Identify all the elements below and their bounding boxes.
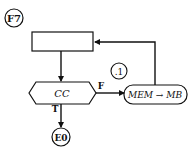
true-branch-label: T: [52, 104, 59, 114]
loop-back-arrow: [95, 42, 155, 85]
note-connector-label: .1: [115, 67, 124, 77]
decision-label: CC: [54, 88, 70, 99]
exit-connector-e0: E0: [52, 128, 70, 146]
note-connector: .1: [111, 63, 127, 79]
process-box: [32, 32, 93, 51]
flowchart-canvas: F7 CC F MEM → MB .1 T E0: [0, 0, 196, 157]
decision-cc: CC: [29, 82, 96, 104]
false-branch-label: F: [98, 81, 105, 91]
exit-connector-label: E0: [54, 133, 67, 143]
entry-connector-f7: F7: [5, 9, 23, 27]
action-mem-to-mb: MEM → MB: [124, 85, 187, 104]
action-label: MEM → MB: [127, 90, 182, 100]
entry-connector-label: F7: [7, 13, 21, 24]
